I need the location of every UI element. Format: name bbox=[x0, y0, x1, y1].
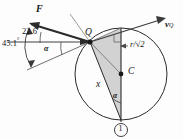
contact-marker-label: 1 bbox=[119, 125, 123, 133]
alpha-inner-label: α bbox=[113, 92, 117, 100]
force-label: F bbox=[36, 4, 43, 14]
radius-label: r/√2 bbox=[130, 40, 145, 49]
diagram-canvas: F vQ 22.6° 45.1° α Q C x r/√2 α 1 bbox=[0, 0, 183, 139]
angle-22-degree: ° bbox=[37, 25, 39, 31]
angle-45-label: 45.1° bbox=[2, 38, 19, 47]
point-c-label: C bbox=[128, 67, 134, 77]
angle-arc-22 bbox=[40, 32, 41, 43]
angle-45-degree: ° bbox=[17, 37, 19, 43]
point-q-label: Q bbox=[85, 28, 92, 38]
point-c-dot bbox=[119, 72, 124, 77]
velocity-label: vQ bbox=[165, 20, 173, 29]
angle-45-value: 45.1 bbox=[2, 38, 17, 48]
length-x-label: x bbox=[96, 80, 100, 90]
velocity-vector-line bbox=[90, 19, 163, 42]
angle-22-value: 22.6 bbox=[22, 26, 37, 36]
angle-22-label: 22.6° bbox=[22, 26, 39, 35]
point-q-dot bbox=[87, 39, 92, 44]
lower-construction-line bbox=[27, 42, 90, 70]
alpha-label: α bbox=[44, 45, 48, 53]
angle-arc-alpha bbox=[61, 42, 62, 55]
velocity-subscript: Q bbox=[169, 22, 173, 28]
diagram-svg bbox=[0, 0, 183, 139]
